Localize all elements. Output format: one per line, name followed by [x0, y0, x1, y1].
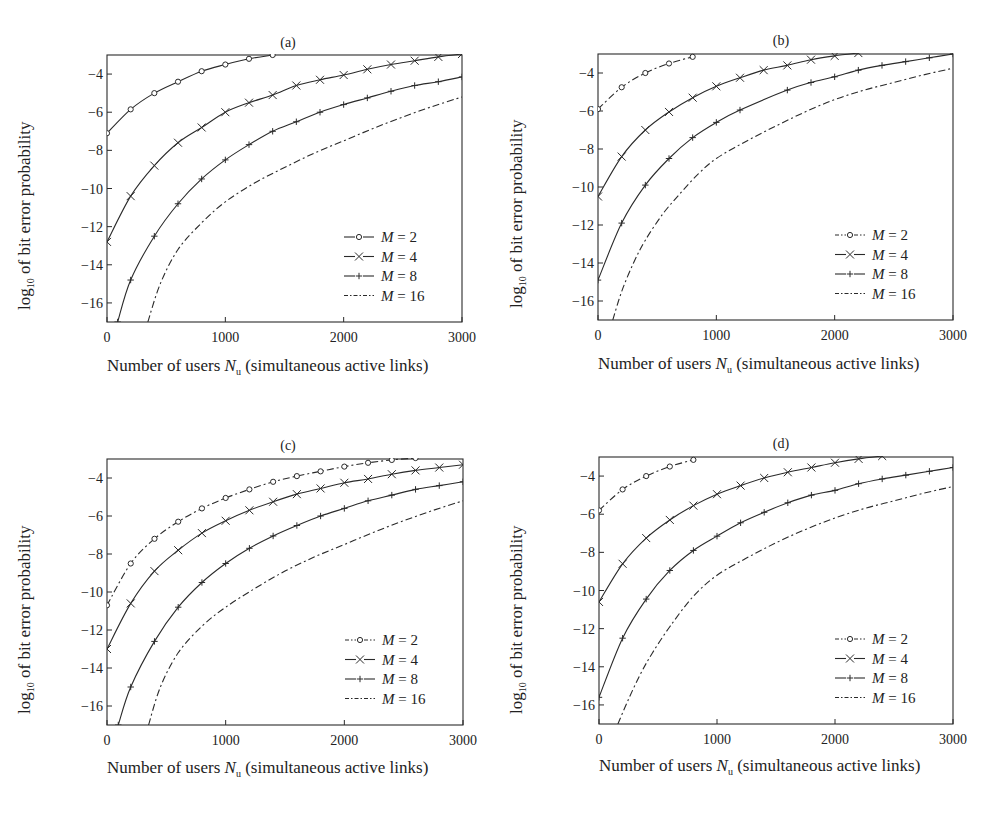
x-marker	[641, 126, 649, 134]
circle-marker	[356, 234, 361, 239]
plus-marker	[341, 505, 347, 511]
plot-area: −4−6−8−10−12−14−160100020003000M = 2M = …	[0, 0, 499, 410]
x-tick-label: 1000	[702, 328, 730, 343]
legend-item: M = 16	[345, 691, 426, 707]
x-marker	[245, 99, 253, 107]
plus-marker	[618, 220, 624, 226]
circle-marker	[175, 79, 180, 84]
y-tick-label: −10	[573, 584, 595, 599]
y-tick-label: −8	[579, 142, 594, 157]
plus-marker	[950, 51, 956, 57]
x-marker	[736, 74, 744, 82]
circle-marker	[294, 474, 299, 479]
legend-item: M = 8	[835, 266, 908, 282]
circle-marker	[691, 457, 696, 462]
circle-marker	[318, 469, 323, 474]
y-tick-label: −16	[81, 296, 103, 311]
plus-marker	[808, 79, 814, 85]
legend-label: M = 16	[380, 288, 425, 304]
x-tick-label: 1000	[703, 732, 731, 747]
x-marker	[269, 498, 277, 506]
plus-marker	[737, 520, 743, 526]
legend-label: M = 4	[871, 247, 908, 263]
x-tick-label: 1000	[211, 330, 239, 345]
plus-marker	[364, 95, 370, 101]
plus-marker	[115, 722, 121, 728]
circle-marker	[413, 455, 418, 460]
plus-marker	[737, 107, 743, 113]
series-line-m4	[599, 456, 882, 602]
y-tick-label: −10	[572, 180, 594, 195]
series-line-m2	[599, 460, 693, 511]
series-group	[103, 455, 467, 728]
x-marker	[737, 482, 745, 490]
x-marker	[783, 61, 791, 69]
plus-marker	[713, 119, 719, 125]
plus-marker	[619, 635, 625, 641]
plus-marker	[340, 101, 346, 107]
legend: M = 2M = 4M = 8M = 16	[835, 631, 916, 706]
plus-marker	[127, 277, 133, 283]
legend-item: M = 2	[345, 632, 418, 648]
plus-marker	[460, 479, 466, 485]
series-line-m4	[107, 54, 462, 242]
legend-label: M = 2	[381, 632, 418, 648]
plus-marker	[128, 684, 134, 690]
x-tick-label: 3000	[448, 330, 476, 345]
x-marker	[245, 506, 253, 514]
y-tick-label: −16	[81, 699, 103, 714]
x-tick-label: 0	[104, 330, 111, 345]
legend-item: M = 4	[835, 247, 908, 263]
plus-marker	[246, 545, 252, 551]
x-marker	[713, 490, 721, 498]
y-tick-label: −6	[88, 509, 103, 524]
circle-marker	[847, 636, 852, 641]
plus-marker	[436, 482, 442, 488]
circle-marker	[365, 460, 370, 465]
y-tick-label: −14	[572, 256, 594, 271]
x-tick-label: 0	[596, 732, 603, 747]
x-marker	[760, 66, 768, 74]
circle-marker	[342, 464, 347, 469]
plus-marker	[596, 694, 602, 700]
circle-marker	[152, 536, 157, 541]
plus-marker	[459, 74, 465, 80]
legend-label: M = 8	[380, 268, 417, 284]
plus-marker	[317, 513, 323, 519]
legend-item: M = 2	[344, 229, 417, 245]
x-marker	[760, 474, 768, 482]
plus-marker	[903, 472, 909, 478]
x-tick-label: 0	[104, 733, 111, 748]
y-tick-label: −14	[81, 258, 103, 273]
legend-label: M = 2	[380, 229, 417, 245]
circle-marker	[152, 91, 157, 96]
circle-marker	[690, 54, 695, 59]
legend-item: M = 8	[345, 671, 418, 687]
legend-label: M = 16	[381, 691, 426, 707]
legend-label: M = 2	[871, 227, 908, 243]
x-marker	[619, 560, 627, 568]
plus-marker	[317, 109, 323, 115]
legend: M = 2M = 4M = 8M = 16	[344, 229, 425, 304]
y-axis-label: log10 of bit error probability	[507, 120, 528, 308]
circle-marker	[643, 70, 648, 75]
plus-marker	[784, 87, 790, 93]
x-marker	[316, 76, 324, 84]
x-marker	[127, 599, 135, 607]
y-tick-label: −8	[580, 545, 595, 560]
circle-marker	[104, 131, 109, 136]
plus-marker	[246, 141, 252, 147]
circle-marker	[271, 479, 276, 484]
x-marker	[340, 71, 348, 79]
chart-panel-d: (d) −4−6−8−10−12−14−160100020003000M = 2…	[499, 410, 999, 823]
legend-label: M = 8	[381, 671, 418, 687]
legend-item: M = 8	[344, 268, 417, 284]
circle-marker	[619, 85, 624, 90]
x-marker	[666, 516, 674, 524]
x-marker	[689, 94, 697, 102]
y-tick-label: −6	[88, 105, 103, 120]
circle-marker	[223, 495, 228, 500]
circle-marker	[128, 561, 133, 566]
y-tick-label: −14	[573, 660, 595, 675]
plus-marker	[365, 498, 371, 504]
